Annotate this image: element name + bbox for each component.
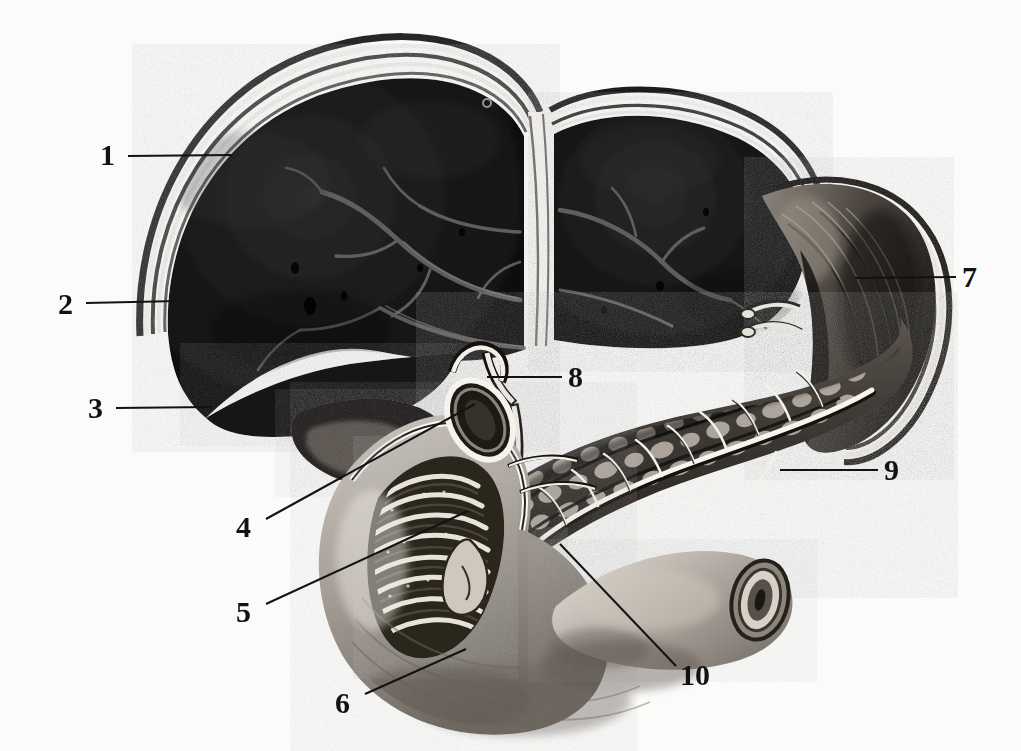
- illustration-canvas: [0, 0, 1021, 751]
- label-5: 5: [236, 597, 251, 627]
- leader-line-1: [128, 155, 232, 156]
- anatomical-plate: 1 2 3 4 5 6 7 8 9 10: [0, 0, 1021, 751]
- label-10: 10: [680, 660, 710, 690]
- leader-line-7: [855, 277, 956, 278]
- label-2: 2: [58, 289, 73, 319]
- label-8: 8: [568, 362, 583, 392]
- label-1: 1: [100, 140, 115, 170]
- leader-line-3: [116, 407, 212, 408]
- label-9: 9: [884, 455, 899, 485]
- label-6: 6: [335, 688, 350, 718]
- label-4: 4: [236, 512, 251, 542]
- label-3: 3: [88, 393, 103, 423]
- label-7: 7: [962, 262, 977, 292]
